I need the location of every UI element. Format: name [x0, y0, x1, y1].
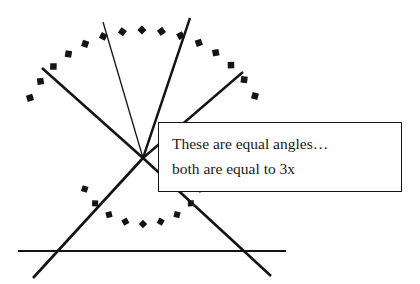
upper-dotted-arc-marker: [26, 94, 34, 102]
callout-box: These are equal angles… both are equal t…: [158, 122, 402, 192]
upper-dotted-arc-marker: [251, 92, 259, 100]
upper-dotted-arc-marker: [118, 27, 127, 36]
callout-line-1: These are equal angles…: [172, 131, 396, 156]
callout-line-2: both are equal to 3x: [172, 156, 396, 181]
thick-ray-upper-left-line: [42, 68, 143, 158]
upper-dotted-arc-marker: [195, 39, 203, 47]
upper-dotted-arc-marker: [37, 78, 44, 85]
lower-dotted-arc-marker: [92, 200, 98, 206]
upper-dotted-arc-marker: [50, 63, 57, 70]
upper-dotted-arc-marker: [157, 27, 166, 36]
upper-dotted-arc-marker: [137, 25, 146, 34]
callout-text-block: These are equal angles… both are equal t…: [172, 131, 396, 181]
geometry-diagram-canvas: These are equal angles… both are equal t…: [0, 0, 420, 284]
upper-dotted-arc-marker: [65, 50, 72, 57]
upper-dotted-arc-marker: [228, 62, 235, 69]
thin-ray-upper-line: [103, 22, 143, 158]
lower-dotted-arc-marker: [81, 185, 88, 192]
upper-dotted-arc-marker: [241, 76, 248, 83]
lower-dotted-arc-marker: [121, 218, 129, 226]
lower-dotted-arc-marker: [173, 211, 180, 218]
lower-dotted-arc-marker: [188, 200, 194, 206]
upper-dotted-arc-marker: [81, 40, 89, 48]
upper-dotted-arc-marker: [212, 49, 220, 57]
lower-dotted-arc-marker: [157, 218, 165, 226]
lower-dotted-arc-marker: [139, 220, 147, 228]
lower-dotted-arc-marker: [105, 211, 112, 218]
